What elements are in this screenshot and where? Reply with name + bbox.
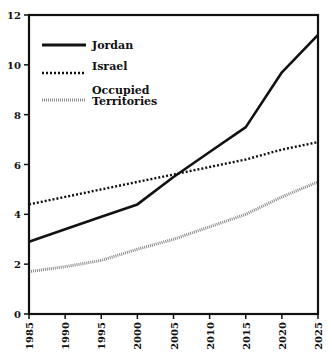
y-tick-label: 2 xyxy=(14,259,21,270)
x-tick-label: 2000 xyxy=(132,322,143,350)
y-axis-ticks: 024681012 xyxy=(7,10,29,320)
legend-label-occupied-line2: Territories xyxy=(92,95,157,108)
series-line-israel xyxy=(29,142,318,204)
x-tick-label: 2020 xyxy=(277,322,288,350)
x-axis-ticks: 198519901995200020052010201520202025 xyxy=(24,314,324,350)
y-tick-label: 0 xyxy=(14,309,21,320)
y-tick-label: 8 xyxy=(14,110,21,121)
y-tick-label: 6 xyxy=(14,160,21,171)
legend: Jordan Israel Occupied Territories xyxy=(42,39,157,108)
series-line-jordan xyxy=(29,35,318,242)
series-lines xyxy=(29,35,318,272)
y-tick-label: 10 xyxy=(7,60,21,71)
line-chart: 024681012 198519901995200020052010201520… xyxy=(0,0,332,360)
y-tick-label: 12 xyxy=(7,10,21,21)
legend-label-jordan: Jordan xyxy=(91,39,133,52)
x-tick-label: 1995 xyxy=(96,322,107,350)
plot-frame xyxy=(29,15,318,314)
legend-label-israel: Israel xyxy=(92,60,127,73)
x-tick-label: 2025 xyxy=(313,322,324,350)
x-tick-label: 2015 xyxy=(241,322,252,350)
x-tick-label: 2010 xyxy=(205,322,216,350)
y-tick-label: 4 xyxy=(14,209,21,220)
x-tick-label: 1990 xyxy=(60,322,71,350)
x-tick-label: 2005 xyxy=(169,322,180,350)
x-tick-label: 1985 xyxy=(24,322,35,350)
